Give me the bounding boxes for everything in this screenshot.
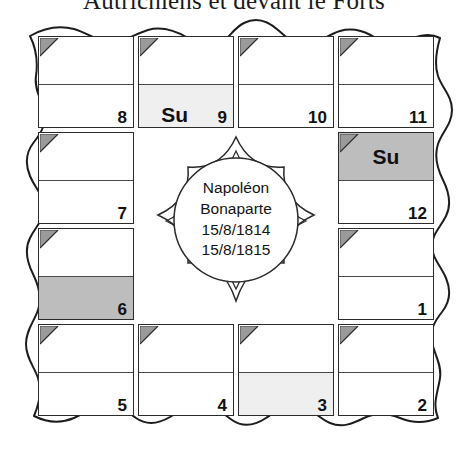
day-number: 5: [118, 397, 127, 414]
day-number: 12: [408, 205, 427, 222]
folded-corner-icon: [40, 134, 60, 154]
sunday-label: Su: [373, 146, 400, 167]
day-number: 8: [118, 109, 127, 126]
calendar-day-cell-3[interactable]: 3: [238, 324, 334, 416]
day-cell-upper-band: [339, 325, 433, 373]
day-cell-upper-band: [139, 325, 233, 373]
calendar-day-cell-5[interactable]: 5: [38, 324, 134, 416]
day-number: 3: [318, 397, 327, 414]
folded-corner-icon: [240, 326, 260, 346]
day-cell-upper-band: [39, 133, 133, 181]
page-title: Autrichiens et devant le Forts: [0, 0, 468, 15]
day-cell-upper-band: [239, 325, 333, 373]
day-cell-lower-band: 1: [339, 277, 433, 319]
medallion-line-4: 15/8/1815: [202, 240, 271, 260]
day-cell-lower-band: 4: [139, 373, 233, 415]
day-cell-lower-band: 2: [339, 373, 433, 415]
day-cell-upper-band: [39, 325, 133, 373]
calendar-day-cell-7[interactable]: 7: [38, 132, 134, 224]
medallion-line-1: Napoléon: [203, 178, 269, 198]
day-cell-lower-band: 3: [239, 373, 333, 415]
day-number: 11: [409, 109, 427, 126]
day-number: 1: [418, 301, 427, 318]
day-cell-upper-band: [339, 229, 433, 277]
day-number: 6: [118, 301, 127, 318]
calendar-day-cell-4[interactable]: 4: [138, 324, 234, 416]
day-number: 7: [118, 205, 127, 222]
calendar-day-cell-8[interactable]: 8: [38, 36, 134, 128]
medallion-line-2: Bonaparte: [200, 199, 272, 219]
calendar-day-cell-2[interactable]: 2: [338, 324, 434, 416]
calendar-day-cell-9[interactable]: Su9: [138, 36, 234, 128]
center-medallion: Napoléon Bonaparte 15/8/1814 15/8/1815: [150, 131, 322, 307]
folded-corner-icon: [240, 38, 260, 58]
medallion-line-3: 15/8/1814: [202, 220, 271, 240]
day-cell-lower-band: Su9: [139, 85, 233, 127]
folded-corner-icon: [340, 134, 360, 154]
day-cell-lower-band: 12: [339, 181, 433, 223]
calendar-day-cell-10[interactable]: 10: [238, 36, 334, 128]
day-cell-lower-band: 11: [339, 85, 433, 127]
folded-corner-icon: [40, 230, 60, 250]
folded-corner-icon: [340, 38, 360, 58]
sunday-label: Su: [161, 104, 188, 125]
folded-corner-icon: [340, 326, 360, 346]
calendar-day-cell-1[interactable]: 1: [338, 228, 434, 320]
day-cell-upper-band: [239, 37, 333, 85]
folded-corner-icon: [340, 230, 360, 250]
day-cell-lower-band: 5: [39, 373, 133, 415]
calendar-day-cell-12[interactable]: Su12: [338, 132, 434, 224]
calendar-day-cell-6[interactable]: 6: [38, 228, 134, 320]
day-number: 10: [308, 109, 327, 126]
day-cell-lower-band: 6: [39, 277, 133, 319]
day-cell-lower-band: 7: [39, 181, 133, 223]
day-cell-upper-band: [339, 37, 433, 85]
folded-corner-icon: [40, 326, 60, 346]
day-cell-upper-band: [39, 37, 133, 85]
day-cell-upper-band: Su: [339, 133, 433, 181]
folded-corner-icon: [140, 38, 160, 58]
medallion-text-block: Napoléon Bonaparte 15/8/1814 15/8/1815: [150, 131, 322, 307]
day-cell-upper-band: [139, 37, 233, 85]
folded-corner-icon: [40, 38, 60, 58]
calendar-day-cell-11[interactable]: 11: [338, 36, 434, 128]
day-number: 4: [218, 397, 227, 414]
folded-corner-icon: [140, 326, 160, 346]
day-cell-lower-band: 10: [239, 85, 333, 127]
day-cell-lower-band: 8: [39, 85, 133, 127]
day-cell-upper-band: [39, 229, 133, 277]
day-number: 9: [218, 109, 227, 126]
day-number: 2: [418, 397, 427, 414]
